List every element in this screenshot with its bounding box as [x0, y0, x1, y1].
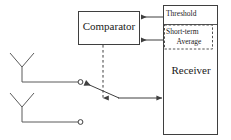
antenna-lower-arm-right: [22, 93, 34, 107]
average-label: Average: [166, 38, 212, 46]
antenna-lower-terminal: [78, 120, 83, 125]
antenna-upper-feedline: [22, 67, 78, 82]
block-diagram: Comparator Receiver Threshold Short-term…: [0, 0, 231, 140]
comparator-label: Comparator: [82, 21, 136, 32]
receiver-label: Receiver: [166, 65, 216, 76]
antenna-upper-arm-right: [22, 53, 34, 67]
antenna-lower-arm-left: [10, 93, 22, 107]
threshold-label: Threshold: [166, 10, 216, 18]
antenna-upper-arm-left: [10, 53, 22, 67]
antenna-upper-terminal: [78, 80, 83, 85]
short-term-label: Short-term: [166, 28, 212, 36]
antenna-switch-arm: [85, 83, 119, 98]
antenna-lower-feedline: [22, 107, 78, 122]
